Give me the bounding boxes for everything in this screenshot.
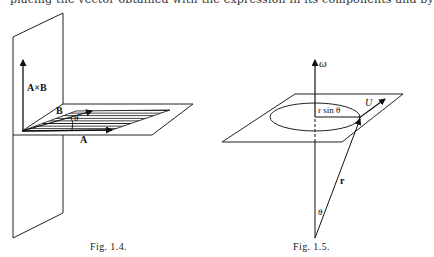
figure-1-5: ω r sin θ U r θ Fig. 1.5. [222, 57, 403, 252]
label-omega: ω [319, 57, 327, 69]
position-vector [315, 119, 360, 238]
label-cross-product: A×B [27, 82, 47, 93]
figure-1-4: A×B B θ A Fig. 1.4. [13, 13, 193, 252]
label-angle-theta: θ [318, 207, 323, 217]
label-angle: θ [74, 113, 79, 123]
label-vector-a: A [80, 134, 88, 145]
caption-fig-1-4: Fig. 1.4. [90, 241, 127, 252]
label-r-sin-theta: r sin θ [318, 105, 340, 115]
parallelogram-area [22, 110, 170, 131]
caption-fig-1-5: Fig. 1.5. [293, 241, 330, 252]
label-velocity: U [365, 97, 373, 108]
label-vector-b: B [56, 105, 63, 116]
label-position: r [340, 175, 345, 186]
rotation-plane [222, 94, 403, 142]
